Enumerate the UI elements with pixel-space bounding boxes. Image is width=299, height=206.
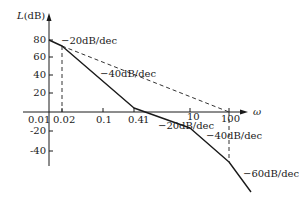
y-tick-20: 20 — [22, 88, 46, 98]
y-axis-label: L(dB) — [17, 11, 45, 21]
x-tick-100: 100 — [221, 114, 240, 124]
slope-label-1: −20dB/dec — [61, 36, 117, 46]
x-tick-1: 1 — [143, 115, 149, 125]
y-tick-80: 80 — [22, 35, 46, 45]
slope-label-2: −40dB/dec — [100, 69, 156, 79]
bode-plot: L(dB) ω 80 60 40 20 -20 -40 0.01 0.02 0.… — [0, 0, 299, 206]
dashed-guides — [62, 46, 229, 162]
y-axis-var: L — [17, 10, 24, 21]
y-axis-unit: (dB) — [24, 10, 46, 21]
x-tick-0.4: 0.4 — [128, 115, 144, 125]
y-tick-40: 40 — [22, 70, 46, 80]
slope-label-5: −60dB/dec — [243, 169, 299, 179]
y-tick-neg20: -20 — [22, 126, 46, 136]
y-axis-arrow-icon — [47, 13, 52, 21]
x-tick-0.01: 0.01 — [28, 115, 50, 125]
x-tick-0.1: 0.1 — [96, 115, 112, 125]
x-axis-label: ω — [253, 107, 261, 117]
y-tick-neg40: -40 — [22, 146, 46, 156]
y-tick-60: 60 — [22, 52, 46, 62]
x-axis-arrow-icon — [240, 110, 248, 115]
y-ticks — [49, 40, 53, 151]
x-tick-0.02: 0.02 — [53, 115, 75, 125]
slope-label-4: −40dB/dec — [206, 131, 262, 141]
